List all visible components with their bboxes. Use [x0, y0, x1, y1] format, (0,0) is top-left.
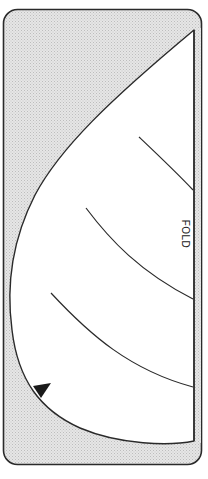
fold-strip: [194, 28, 201, 443]
fold-pattern-diagram: FOLD: [0, 0, 208, 479]
fold-label: FOLD: [180, 220, 191, 249]
